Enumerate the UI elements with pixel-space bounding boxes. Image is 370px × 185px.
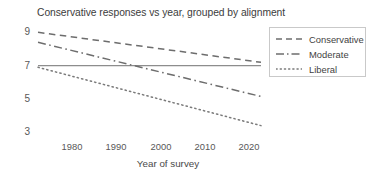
series-line-moderate — [38, 42, 261, 96]
chart-legend: Conservative Moderate Liberal — [269, 27, 366, 77]
xtick-label-1990: 1990 — [99, 141, 133, 152]
legend-label-moderate: Moderate — [309, 49, 349, 60]
legend-item-moderate: Moderate — [276, 47, 349, 61]
ytick-label-5: 5 — [14, 93, 30, 104]
legend-label-conservative: Conservative — [309, 34, 364, 45]
legend-swatch-dashed-icon — [276, 34, 302, 44]
legend-swatch-dashdot-icon — [276, 49, 302, 59]
ytick-label-7: 7 — [14, 60, 30, 71]
legend-label-liberal: Liberal — [309, 64, 337, 75]
ytick-label-9: 9 — [14, 26, 30, 37]
legend-item-liberal: Liberal — [276, 62, 337, 76]
xtick-label-2010: 2010 — [188, 141, 222, 152]
xtick-label-2020: 2020 — [232, 141, 266, 152]
xtick-label-2000: 2000 — [144, 141, 178, 152]
legend-item-conservative: Conservative — [276, 32, 364, 46]
ytick-label-3: 3 — [14, 126, 30, 137]
x-axis-title: Year of survey — [108, 158, 228, 169]
legend-swatch-dotted-icon — [276, 64, 302, 74]
chart-container: Conservative responses vs year, grouped … — [0, 0, 370, 185]
series-line-conservative — [38, 32, 261, 62]
series-line-liberal — [38, 67, 261, 125]
xtick-label-1980: 1980 — [55, 141, 89, 152]
